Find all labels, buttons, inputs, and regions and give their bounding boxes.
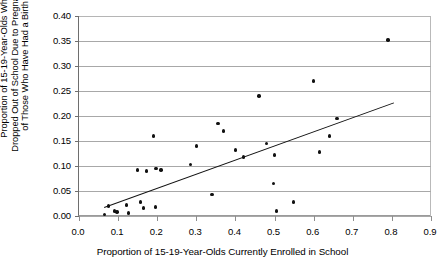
y-tick-mark xyxy=(75,41,79,42)
x-tick-label: 0.8 xyxy=(374,227,408,237)
data-point xyxy=(272,182,275,185)
data-point xyxy=(210,193,213,196)
gridline xyxy=(79,166,431,167)
x-tick-label: 0.6 xyxy=(296,227,330,237)
x-tick-label: 0.1 xyxy=(100,227,134,237)
gridline xyxy=(79,41,431,42)
y-axis-title-wrap: Proportion of 15-19-Year-Olds WhoDropped… xyxy=(0,0,30,230)
data-point xyxy=(318,150,321,153)
x-tick-mark xyxy=(314,216,315,221)
y-tick-label: 0.35 xyxy=(37,36,71,46)
x-tick-mark xyxy=(392,216,393,221)
x-tick-mark xyxy=(235,216,236,221)
y-tick-mark xyxy=(75,91,79,92)
y-tick-label: 0.30 xyxy=(37,61,71,71)
data-point xyxy=(273,153,276,156)
data-point xyxy=(265,142,268,145)
x-tick-label: 0.0 xyxy=(61,227,95,237)
data-point xyxy=(154,167,157,170)
chart-figure: 0.000.050.100.150.200.250.300.350.40 0.0… xyxy=(0,0,445,269)
data-point xyxy=(257,94,260,97)
x-tick-mark xyxy=(196,216,197,221)
data-point xyxy=(275,209,278,212)
y-axis-title-line: of Those Who Have Had a Birth xyxy=(20,0,31,166)
data-point xyxy=(159,168,162,171)
y-tick-label: 0.05 xyxy=(37,186,71,196)
data-point xyxy=(222,129,225,132)
y-tick-label: 0.25 xyxy=(37,86,71,96)
y-tick-mark xyxy=(75,191,79,192)
data-point xyxy=(335,117,338,120)
data-point xyxy=(216,122,219,125)
data-point xyxy=(234,148,237,151)
gridline xyxy=(79,141,431,142)
x-tick-label: 0.7 xyxy=(335,227,369,237)
data-point xyxy=(328,134,331,137)
gridline xyxy=(79,16,431,17)
data-point xyxy=(154,205,157,208)
y-tick-label: 0.00 xyxy=(37,211,71,221)
x-axis-title: Proportion of 15-19-Year-Olds Currently … xyxy=(0,246,445,257)
y-axis-title: Proportion of 15-19-Year-Olds WhoDropped… xyxy=(0,0,31,166)
x-tick-label: 0.2 xyxy=(139,227,173,237)
y-tick-label: 0.15 xyxy=(37,136,71,146)
data-point xyxy=(127,211,130,214)
y-tick-label: 0.10 xyxy=(37,161,71,171)
x-tick-mark xyxy=(157,216,158,221)
y-tick-mark xyxy=(75,116,79,117)
gridline xyxy=(79,91,431,92)
x-tick-mark xyxy=(275,216,276,221)
y-tick-mark xyxy=(75,66,79,67)
data-point xyxy=(292,200,295,203)
data-point xyxy=(136,168,139,171)
y-tick-mark xyxy=(75,166,79,167)
y-tick-label: 0.40 xyxy=(37,11,71,21)
data-point xyxy=(125,203,128,206)
plot-area xyxy=(78,16,430,216)
data-point xyxy=(312,79,315,82)
trendline-segment xyxy=(104,103,394,208)
x-tick-mark xyxy=(353,216,354,221)
y-tick-mark xyxy=(75,141,79,142)
data-point xyxy=(152,134,155,137)
y-axis-title-line: Dropped Out of School Due to Pregnancy, xyxy=(10,0,21,166)
x-tick-mark xyxy=(431,216,432,221)
y-tick-mark xyxy=(75,16,79,17)
gridline xyxy=(79,116,431,117)
x-tick-label: 0.5 xyxy=(257,227,291,237)
data-point xyxy=(139,200,142,203)
gridline xyxy=(79,66,431,67)
y-tick-label: 0.20 xyxy=(37,111,71,121)
x-tick-label: 0.9 xyxy=(413,227,445,237)
x-tick-label: 0.3 xyxy=(178,227,212,237)
data-point xyxy=(386,38,389,41)
data-point xyxy=(115,210,118,213)
x-tick-mark xyxy=(79,216,80,221)
x-tick-mark xyxy=(118,216,119,221)
gridline xyxy=(79,216,431,217)
data-point xyxy=(145,169,148,172)
gridline xyxy=(79,191,431,192)
data-point xyxy=(142,206,145,209)
x-tick-label: 0.4 xyxy=(217,227,251,237)
data-point xyxy=(195,144,198,147)
y-axis-title-line: Proportion of 15-19-Year-Olds Who xyxy=(0,0,10,166)
